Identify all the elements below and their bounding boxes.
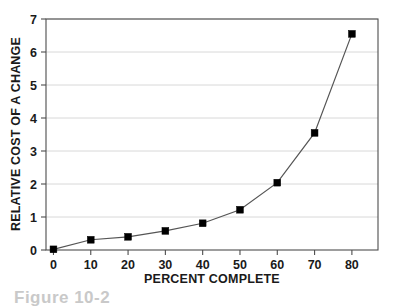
- x-tick-label-50: 50: [233, 258, 247, 272]
- x-tick-label-20: 20: [121, 258, 135, 272]
- y-axis-title: RELATIVE COST OF A CHANGE: [9, 37, 23, 231]
- y-tick-label-7: 7: [30, 13, 37, 27]
- x-tick-label-60: 60: [270, 258, 284, 272]
- data-point-marker: [125, 233, 132, 240]
- x-tick-label-80: 80: [345, 258, 359, 272]
- data-point-marker: [162, 227, 169, 234]
- x-tick-label-40: 40: [196, 258, 210, 272]
- x-tick-label-0: 0: [50, 258, 57, 272]
- data-point-marker: [199, 220, 206, 227]
- data-point-marker: [348, 30, 355, 37]
- data-point-marker: [311, 129, 318, 136]
- y-tick-label-6: 6: [30, 46, 37, 60]
- data-point-marker: [87, 236, 94, 243]
- figure-caption: Figure 10-2: [14, 288, 110, 308]
- x-tick-label-30: 30: [158, 258, 172, 272]
- x-tick-label-10: 10: [84, 258, 98, 272]
- y-tick-label-0: 0: [30, 244, 37, 258]
- data-point-marker: [237, 206, 244, 213]
- y-tick-label-4: 4: [30, 112, 37, 126]
- y-tick-label-2: 2: [30, 178, 37, 192]
- y-tick-label-5: 5: [30, 79, 37, 93]
- y-tick-label-3: 3: [30, 145, 37, 159]
- x-tick-label-70: 70: [308, 258, 322, 272]
- data-point-marker: [274, 179, 281, 186]
- data-point-marker: [50, 246, 57, 253]
- y-tick-label-1: 1: [30, 211, 37, 225]
- x-axis-title: PERCENT COMPLETE: [144, 272, 280, 286]
